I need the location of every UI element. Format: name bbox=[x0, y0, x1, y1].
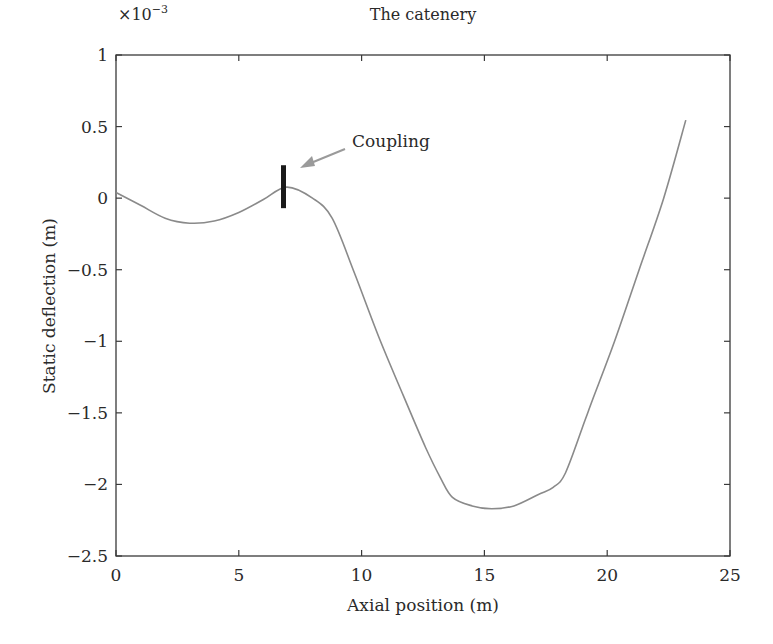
data-series bbox=[116, 120, 686, 509]
deflection-line bbox=[116, 120, 686, 509]
axis-ticks: 051015202510.50−0.5−1−1.5−2−2.5 bbox=[67, 45, 741, 585]
annotations: Coupling bbox=[284, 131, 430, 208]
x-tick-label: 15 bbox=[474, 565, 496, 585]
y-tick-label: 0.5 bbox=[81, 117, 108, 137]
y-tick-label: −2.5 bbox=[67, 546, 108, 566]
chart-title: The catenery bbox=[370, 5, 476, 24]
y-axis-label: Static deflection (m) bbox=[39, 218, 59, 394]
x-tick-label: 0 bbox=[111, 565, 122, 585]
x-tick-label: 5 bbox=[233, 565, 244, 585]
y-tick-label: −1 bbox=[83, 331, 108, 351]
coupling-label: Coupling bbox=[352, 131, 430, 151]
x-tick-label: 10 bbox=[351, 565, 373, 585]
y-tick-label: −1.5 bbox=[67, 403, 108, 423]
x-tick-label: 25 bbox=[719, 565, 741, 585]
y-tick-label: 1 bbox=[97, 45, 108, 65]
catenary-chart: 051015202510.50−0.5−1−1.5−2−2.5 Coupling… bbox=[0, 0, 773, 644]
y-exponent-label: ×10−3 bbox=[118, 3, 168, 24]
y-tick-label: −0.5 bbox=[67, 260, 108, 280]
x-axis-label: Axial position (m) bbox=[346, 595, 499, 615]
x-tick-label: 20 bbox=[596, 565, 618, 585]
y-tick-label: 0 bbox=[97, 188, 108, 208]
arrowhead-icon bbox=[300, 156, 315, 168]
y-tick-label: −2 bbox=[83, 474, 108, 494]
